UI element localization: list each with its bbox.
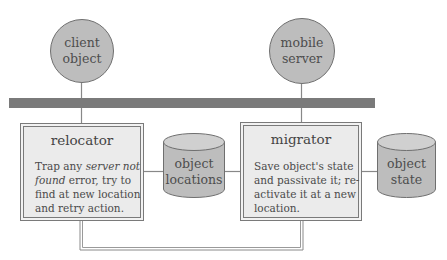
relocator-line-1: Trap any server not: [35, 160, 141, 172]
migrator-line-2: and passivate it; re-: [254, 174, 360, 186]
relocator-title: relocator: [51, 132, 114, 148]
locations-label-2: locations: [166, 172, 223, 187]
migrator-title: migrator: [271, 131, 332, 147]
object-state-store: object state: [378, 134, 436, 198]
relocator-line-3: find at new location: [35, 188, 141, 200]
migrator-line-1: Save object's state: [254, 160, 353, 172]
state-label-2: state: [391, 172, 422, 187]
server-node-label-1: mobile: [281, 35, 324, 50]
diagram-canvas: client object mobile server relocator Tr…: [0, 0, 447, 260]
server-node-label-2: server: [282, 51, 322, 66]
migrator-line-3: activate it at a new: [254, 188, 356, 200]
migrator-box: migrator Save object's state and passiva…: [241, 123, 362, 221]
network-bus: [9, 98, 375, 108]
client-node-label-2: object: [63, 51, 102, 66]
migrator-line-4: location.: [254, 202, 300, 214]
client-node-label-1: client: [64, 35, 99, 50]
relocator-line-2: found error, try to: [34, 174, 131, 186]
connector-relocator-migrator: [80, 221, 303, 250]
relocator-line-4: and retry action.: [35, 202, 124, 214]
relocator-box: relocator Trap any server not found erro…: [21, 124, 144, 221]
mobile-server-node: mobile server: [270, 19, 335, 84]
state-label-1: object: [387, 156, 426, 171]
object-locations-store: object locations: [164, 134, 225, 198]
client-object-node: client object: [51, 20, 114, 83]
locations-label-1: object: [175, 156, 214, 171]
